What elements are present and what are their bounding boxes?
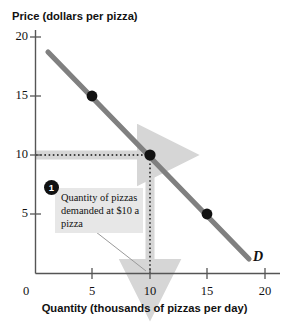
x-tick-label-20: 20 (250, 284, 280, 299)
y-tick-label-5: 5 (6, 206, 28, 221)
demand-curve-figure: Price (dollars per pizza) Quantity (thou… (0, 0, 289, 322)
chart-canvas (0, 0, 289, 322)
x-tick-label-0: 0 (11, 284, 41, 299)
x-tick-label-15: 15 (192, 284, 222, 299)
x-axis-title: Quantity (thousands of pizzas per day) (0, 302, 289, 314)
demand-curve-label: D (253, 249, 263, 265)
data-point-10-10 (144, 149, 155, 160)
data-point-5-15 (87, 91, 98, 102)
y-tick-label-15: 15 (6, 88, 28, 103)
callout-badge: 1 (44, 180, 59, 195)
data-point-15-5 (202, 209, 213, 220)
x-tick-label-10: 10 (135, 284, 165, 299)
y-tick-label-10: 10 (6, 147, 28, 162)
y-axis-title: Price (dollars per pizza) (12, 10, 138, 22)
callout-leader-line (96, 232, 146, 271)
x-tick-label-5: 5 (77, 284, 107, 299)
y-tick-label-20: 20 (6, 29, 28, 44)
callout-text: Quantity of pizzas demanded at $10 a piz… (61, 191, 145, 231)
